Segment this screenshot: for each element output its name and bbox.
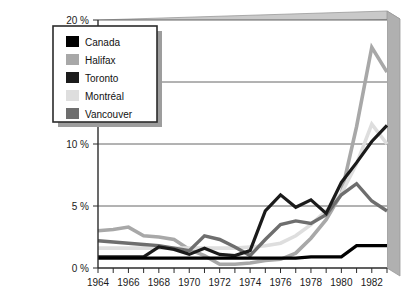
y-tick-label: 0 %: [72, 263, 89, 274]
legend-label-vancouver: Vancouver: [85, 109, 133, 120]
legend-label-canada: Canada: [85, 37, 120, 48]
legend-label-montréal: Montréal: [85, 91, 124, 102]
x-tick-label: 1976: [269, 277, 292, 288]
chart-legend: CanadaHalifaxTorontoMontréalVancouver: [53, 26, 162, 127]
x-tick-label: 1980: [330, 277, 353, 288]
y-tick-label: 5 %: [72, 201, 89, 212]
x-axis-tick-labels: 1964196619681970197219741976197819801982: [87, 277, 383, 288]
legend-swatch-vancouver: [66, 108, 79, 119]
y-tick-label: 10 %: [66, 139, 89, 150]
x-tick-label: 1968: [148, 277, 171, 288]
x-tick-label: 1964: [87, 277, 110, 288]
x-tick-label: 1972: [209, 277, 232, 288]
chart-container: 0 %5 %10 %15 %20 % 196419661968197019721…: [0, 0, 413, 299]
x-tick-label: 1974: [239, 277, 262, 288]
legend-swatch-toronto: [66, 72, 79, 83]
x-tick-label: 1966: [117, 277, 140, 288]
y-tick-label: 20 %: [66, 15, 89, 26]
x-tick-label: 1982: [361, 277, 384, 288]
legend-swatch-canada: [66, 36, 79, 47]
x-tick-label: 1978: [300, 277, 323, 288]
legend-label-halifax: Halifax: [85, 55, 116, 66]
x-tick-label: 1970: [178, 277, 201, 288]
legend-label-toronto: Toronto: [85, 73, 119, 84]
line-chart: 0 %5 %10 %15 %20 % 196419661968197019721…: [0, 0, 413, 299]
x-axis-ticks: [98, 268, 387, 273]
legend-swatch-montréal: [66, 90, 79, 101]
legend-swatch-halifax: [66, 54, 79, 65]
frame-right-bevel: [387, 11, 400, 276]
